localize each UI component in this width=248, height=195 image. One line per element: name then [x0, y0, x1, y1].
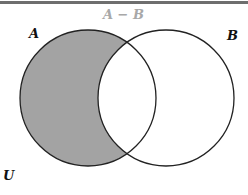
venn-diagram: A − B A B U — [0, 0, 248, 195]
set-a-label: A — [27, 26, 39, 41]
universe-label: U — [3, 168, 15, 183]
shaded-region-a-minus-b — [20, 30, 156, 166]
set-b-circle — [98, 30, 234, 166]
venn-svg: A − B A B U — [0, 0, 248, 195]
title-label: A − B — [101, 7, 144, 22]
set-b-label: B — [226, 28, 238, 43]
